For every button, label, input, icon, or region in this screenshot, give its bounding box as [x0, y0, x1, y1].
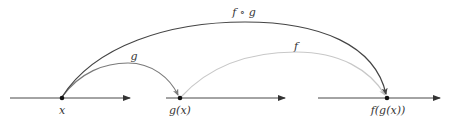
- point-fgx: [385, 96, 390, 101]
- fog-arrow: [62, 22, 386, 97]
- point-gx: [178, 96, 183, 101]
- g-arrow: [62, 63, 178, 97]
- point-x: [60, 96, 65, 101]
- label-gx: g(x): [169, 104, 191, 117]
- label-g: g: [130, 50, 137, 63]
- label-f: f: [293, 40, 300, 53]
- f-arrow: [181, 52, 385, 97]
- label-fgx: f(g(x)): [370, 104, 405, 117]
- label-fog: f ∘ g: [231, 6, 256, 19]
- composition-diagram: x g(x) f(g(x)) g f f ∘ g: [0, 0, 454, 120]
- label-x: x: [59, 104, 66, 117]
